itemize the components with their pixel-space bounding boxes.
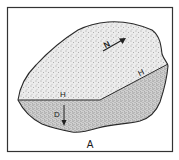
label-dip: D (54, 110, 60, 119)
rock-body (0, 0, 179, 160)
label-h-left: H (60, 90, 66, 99)
figure-canvas: H H D N A (0, 0, 179, 160)
panel-label: A (87, 139, 94, 150)
rock-specimen-figure: H H D N A (0, 0, 179, 160)
